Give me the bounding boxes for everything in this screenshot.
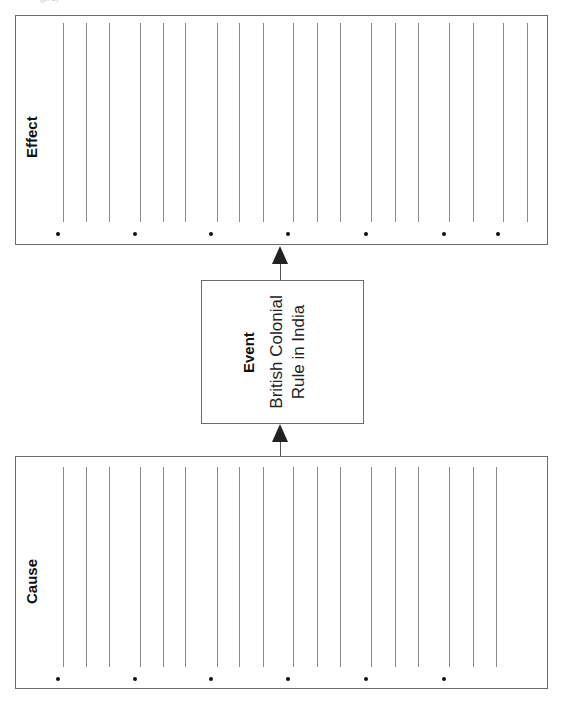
cause-writing-line[interactable]	[340, 467, 341, 667]
effect-writing-line[interactable]	[503, 23, 504, 222]
effect-writing-line[interactable]	[239, 23, 240, 222]
cause-writing-line[interactable]	[185, 467, 186, 667]
effect-writing-line[interactable]	[217, 23, 218, 222]
bullet-icon	[496, 232, 500, 236]
connector-line-cause-to-event	[280, 440, 281, 457]
effect-writing-line[interactable]	[340, 23, 341, 222]
event-text-line-2: Rule in India	[288, 283, 310, 421]
cause-writing-line[interactable]	[293, 467, 294, 667]
bullet-icon	[364, 232, 368, 236]
bullet-icon	[286, 677, 290, 681]
cause-writing-line[interactable]	[263, 467, 264, 667]
effect-writing-line[interactable]	[317, 23, 318, 222]
effect-writing-line[interactable]	[527, 23, 528, 222]
cause-writing-line[interactable]	[163, 467, 164, 667]
bullet-icon	[364, 677, 368, 681]
effect-writing-line[interactable]	[371, 23, 372, 222]
cause-writing-line[interactable]	[317, 467, 318, 667]
event-box: Event British Colonial Rule in India	[201, 280, 364, 424]
effect-writing-line[interactable]	[395, 23, 396, 222]
effect-writing-line[interactable]	[163, 23, 164, 222]
effect-writing-line[interactable]	[140, 23, 141, 222]
bullet-icon	[286, 232, 290, 236]
effect-writing-line[interactable]	[293, 23, 294, 222]
effect-writing-line[interactable]	[263, 23, 264, 222]
bullet-icon	[133, 677, 137, 681]
bullet-icon	[133, 232, 137, 236]
cropped-header-text: (p. 2)	[40, 0, 59, 3]
cause-writing-line[interactable]	[86, 467, 87, 667]
effect-writing-line[interactable]	[449, 23, 450, 222]
effect-box: Effect	[15, 15, 548, 245]
bullet-icon	[56, 232, 60, 236]
bullet-icon	[56, 677, 60, 681]
cause-writing-line[interactable]	[217, 467, 218, 667]
event-text: British Colonial Rule in India	[266, 283, 310, 421]
arrow-up-icon	[272, 424, 288, 442]
cause-writing-line[interactable]	[239, 467, 240, 667]
cause-writing-line[interactable]	[496, 467, 497, 667]
effect-writing-line[interactable]	[63, 23, 64, 222]
cause-writing-line[interactable]	[418, 467, 419, 667]
effect-writing-line[interactable]	[418, 23, 419, 222]
bullet-icon	[442, 232, 446, 236]
effect-writing-line[interactable]	[86, 23, 87, 222]
arrow-up-icon	[272, 246, 288, 264]
bullet-icon	[442, 677, 446, 681]
cause-writing-line[interactable]	[109, 467, 110, 667]
cause-writing-line[interactable]	[449, 467, 450, 667]
cause-writing-line[interactable]	[395, 467, 396, 667]
effect-writing-line[interactable]	[109, 23, 110, 222]
bullet-icon	[209, 232, 213, 236]
cause-writing-line[interactable]	[473, 467, 474, 667]
cause-label: Cause	[23, 559, 40, 604]
effect-writing-line[interactable]	[185, 23, 186, 222]
event-text-line-1: British Colonial	[266, 283, 288, 421]
cause-box: Cause	[15, 456, 548, 689]
effect-label: Effect	[23, 116, 40, 158]
bullet-icon	[209, 677, 213, 681]
event-label: Event	[240, 332, 257, 373]
connector-line-event-to-effect	[280, 262, 281, 281]
effect-writing-line[interactable]	[473, 23, 474, 222]
cause-writing-line[interactable]	[371, 467, 372, 667]
cause-writing-line[interactable]	[63, 467, 64, 667]
cause-writing-line[interactable]	[140, 467, 141, 667]
